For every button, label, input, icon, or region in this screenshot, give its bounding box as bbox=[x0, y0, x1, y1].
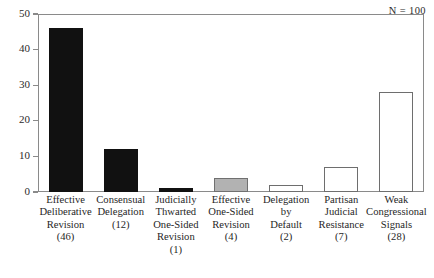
x-axis-label-line: Signals bbox=[361, 219, 432, 231]
x-axis-category-label: WeakCongressionalSignals(28) bbox=[361, 194, 432, 244]
bar-slot bbox=[314, 14, 369, 192]
bar-slot bbox=[369, 14, 424, 192]
bar-chart-figure: N = 100 01020304050 EffectiveDeliberativ… bbox=[0, 0, 434, 278]
bar[interactable] bbox=[379, 92, 413, 192]
x-axis-label-line: (1) bbox=[140, 244, 211, 256]
bar[interactable] bbox=[159, 188, 193, 192]
x-axis-label-line: Weak bbox=[361, 194, 432, 206]
bar-slot bbox=[259, 14, 314, 192]
x-axis-labels: EffectiveDeliberativeRevision(46)Consens… bbox=[38, 194, 424, 278]
y-axis-tick-label: 50 bbox=[19, 7, 30, 19]
bar-slot bbox=[38, 14, 93, 192]
bar[interactable] bbox=[104, 149, 138, 192]
bars-container bbox=[38, 14, 424, 192]
y-axis-tick-label: 10 bbox=[19, 149, 30, 161]
x-axis-label-line: (46) bbox=[30, 231, 101, 243]
bar[interactable] bbox=[49, 28, 83, 192]
bar[interactable] bbox=[269, 185, 303, 192]
y-axis-tick-label: 20 bbox=[19, 113, 30, 125]
x-axis-label-line: (28) bbox=[361, 231, 432, 243]
x-axis-label-line: Congressional bbox=[361, 206, 432, 218]
y-axis: 01020304050 bbox=[0, 14, 38, 192]
bar-slot bbox=[203, 14, 258, 192]
bar-slot bbox=[93, 14, 148, 192]
bar-slot bbox=[148, 14, 203, 192]
bar[interactable] bbox=[324, 167, 358, 192]
bar[interactable] bbox=[214, 178, 248, 192]
y-axis-tick-label: 30 bbox=[19, 78, 30, 90]
y-axis-tick-label: 40 bbox=[19, 42, 30, 54]
